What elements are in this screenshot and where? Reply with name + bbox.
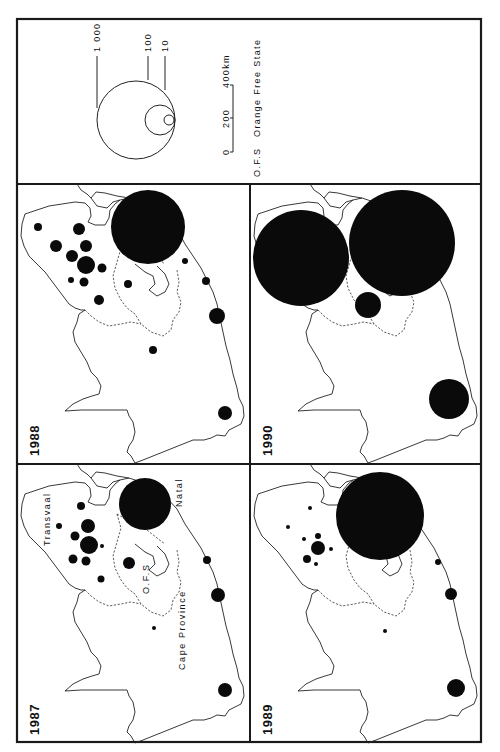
symbols-1989 — [286, 472, 465, 697]
region-label-transvaal: Transvaal — [42, 492, 52, 546]
abbreviation-key: O.F.S Orange Free State — [252, 39, 262, 177]
abbrev-short: O.F.S — [252, 147, 262, 177]
symbol — [209, 308, 225, 324]
symbols-1988 — [34, 190, 232, 420]
symbol — [447, 679, 465, 697]
legend-circle-100 — [145, 105, 175, 135]
symbol — [56, 523, 62, 529]
symbol — [34, 223, 42, 231]
region-label-ofs: O.F.S — [141, 563, 151, 594]
legend-circle-1000 — [97, 81, 175, 159]
scale-label-200: 200 — [221, 109, 231, 128]
symbol — [123, 557, 135, 569]
panel-1988: 1988 — [21, 184, 244, 463]
legend-label-100: 100 — [143, 33, 153, 52]
legend: 1 000 100 10 0 200 400km O.F.S Orange Fr… — [92, 22, 262, 177]
symbol — [218, 406, 232, 420]
symbol — [111, 190, 185, 264]
symbol — [80, 278, 89, 287]
symbol — [152, 626, 156, 630]
panel-1987: Transvaal O.F.S Natal Cape Province 1987 — [21, 464, 244, 743]
symbol — [315, 533, 321, 539]
symbol — [119, 478, 171, 530]
legend-label-1000: 1 000 — [92, 22, 102, 52]
map-figure: 1 000 100 10 0 200 400km O.F.S Orange Fr… — [0, 0, 500, 752]
panel-1990: 1990 — [253, 184, 477, 463]
symbol — [71, 532, 80, 541]
symbol — [302, 537, 306, 541]
symbol — [203, 556, 211, 564]
symbol — [311, 541, 325, 555]
year-label-1987: 1987 — [27, 704, 42, 735]
symbol — [77, 256, 95, 274]
symbol — [286, 525, 290, 529]
symbol — [383, 629, 387, 633]
symbol — [329, 547, 333, 551]
symbols-1990 — [253, 190, 469, 419]
year-label-1990: 1990 — [260, 425, 275, 456]
panel-1989: 1989 — [254, 464, 477, 743]
symbol — [149, 346, 157, 354]
symbol — [82, 557, 91, 566]
symbol — [69, 555, 78, 564]
symbol — [429, 379, 469, 419]
symbol — [218, 683, 232, 697]
symbol — [211, 588, 225, 602]
symbol — [202, 277, 210, 285]
region-label-cape: Cape Province — [177, 590, 187, 670]
symbol — [50, 240, 62, 252]
legend-circle-10 — [164, 115, 174, 125]
symbol — [124, 280, 132, 288]
symbol — [314, 562, 318, 566]
symbol — [336, 472, 424, 560]
symbol — [435, 559, 441, 565]
legend-label-10: 10 — [160, 39, 170, 52]
scale-label-0: 0 — [221, 149, 231, 155]
symbol — [80, 240, 92, 252]
symbol — [77, 502, 85, 510]
year-label-1988: 1988 — [27, 425, 42, 456]
symbol — [98, 264, 107, 273]
symbol — [303, 555, 311, 563]
symbol — [100, 544, 104, 548]
symbol — [98, 576, 105, 583]
symbol — [66, 250, 78, 262]
symbol — [445, 588, 457, 600]
symbol — [68, 277, 74, 283]
scale-label-400: 400km — [221, 54, 231, 88]
symbol — [308, 506, 312, 510]
symbol — [355, 292, 381, 318]
size-legend: 1 000 100 10 — [92, 22, 175, 159]
symbol — [81, 519, 95, 533]
symbol — [182, 258, 188, 264]
scale-bar: 0 200 400km — [221, 54, 233, 155]
symbol — [349, 190, 455, 296]
year-label-1989: 1989 — [260, 704, 275, 735]
region-label-natal: Natal — [174, 478, 184, 507]
symbol — [80, 536, 98, 554]
symbol — [94, 295, 104, 305]
abbrev-full: Orange Free State — [252, 39, 262, 137]
symbol — [73, 223, 85, 235]
symbol — [253, 210, 349, 306]
